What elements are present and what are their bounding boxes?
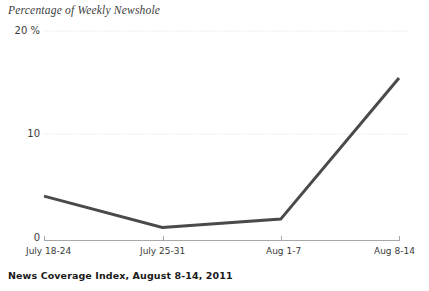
plot-area: 20 % 10 0 July 18-24 July 25-31 Aug 1-7 …	[0, 0, 429, 265]
chart-canvas	[0, 0, 429, 265]
x-axis-tick-label-aug-1-7: Aug 1-7	[266, 246, 301, 256]
chart-source-note: News Coverage Index, August 8-14, 2011	[8, 270, 233, 281]
y-axis-tick-label-20: 20 %	[6, 25, 40, 36]
data-line-newshole	[44, 78, 399, 228]
x-axis-tick-label-july-18-24: July 18-24	[26, 246, 71, 256]
chart-figure: Percentage of Weekly Newshole 20 % 10 0 …	[0, 0, 429, 291]
y-axis-tick-label-10: 10	[6, 128, 40, 139]
x-axis-tick-label-july-25-31: July 25-31	[140, 246, 185, 256]
y-axis-tick-label-0: 0	[6, 232, 40, 243]
x-axis-tick-label-aug-8-14: Aug 8-14	[374, 246, 415, 256]
